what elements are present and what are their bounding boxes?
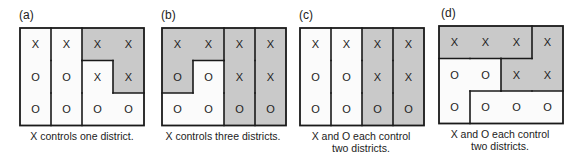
caption-line-1: X and O each control [410,128,571,140]
district-grid: XXXXOOXXOOOO [438,25,564,125]
cell-voter-label: X [482,36,490,48]
panel-d: (d) XXXXOOXXOOOO X and O each control tw… [0,0,571,156]
cell-voter-label: X [513,69,521,81]
cell-voter-label: O [450,101,459,113]
cell-voter-label: O [543,101,552,113]
cell-voter-label: O [481,69,490,81]
caption-line-2: two districts. [410,140,571,152]
cell-voter-label: X [544,36,552,48]
cell-voter-label: X [513,36,521,48]
cell-voter-label: O [481,101,490,113]
cell-voter-label: O [512,101,521,113]
cell-voter-label: X [544,69,552,81]
cell-voter-label: O [450,69,459,81]
panel-caption: X and O each control two districts. [410,128,571,152]
panel-label: (d) [441,6,456,20]
cell-voter-label: X [451,36,459,48]
